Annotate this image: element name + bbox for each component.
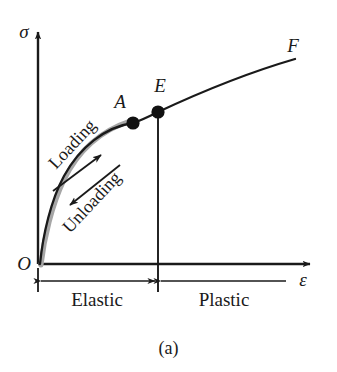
x-axis-label: ε: [299, 269, 307, 290]
region-label-plastic: Plastic: [199, 289, 250, 310]
point-marker-e: [151, 105, 164, 118]
figure-caption: (a): [0, 338, 337, 359]
loading-annotation-group: Loading: [44, 115, 101, 191]
stress-strain-diagram: A E F σ ε O Loading Unloading Elastic: [0, 0, 337, 372]
elastic-dimension: Elastic: [41, 281, 155, 310]
origin-label: O: [17, 253, 31, 274]
point-label-f: F: [286, 35, 299, 56]
point-label-e: E: [153, 75, 166, 96]
stress-strain-curve: [40, 59, 295, 264]
y-axis-label: σ: [19, 21, 29, 42]
point-marker-a: [126, 116, 139, 129]
plastic-dimension: Plastic: [161, 281, 286, 310]
stress-strain-figure: A E F σ ε O Loading Unloading Elastic: [0, 0, 337, 372]
point-label-a: A: [112, 91, 126, 112]
unloading-label: Unloading: [58, 168, 124, 237]
region-label-elastic: Elastic: [71, 289, 123, 310]
